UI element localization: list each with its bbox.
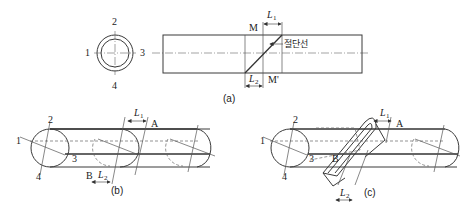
section-label-4: 4 [112,80,117,91]
label-m: M [249,22,258,33]
c-label-3: 3 [309,153,314,164]
caption-b: (b) [111,185,123,196]
c-label-4: 4 [282,171,287,182]
b-label-2: 2 [48,114,53,125]
panel-b-view: L 1 A L 2 B 2 1 3 4 (b) [16,107,215,196]
pipe-cutting-diagram: 2 1 3 4 L 1 L 2 M M' 절단선 (a) [0,0,473,213]
label-m-prime: M' [268,74,279,85]
cut-line-label: 절단선 [284,38,308,49]
b-point-a: A [151,118,159,129]
b-dim-l2-sub: 2 [104,174,108,182]
b-label-3: 3 [72,153,77,164]
caption-c: (c) [364,187,376,198]
c-label-2: 2 [293,114,298,125]
side-view: L 1 L 2 M M' 절단선 (a) [152,9,368,104]
c-dim-l2-sub: 2 [346,192,350,200]
c-dim-l1-sub: 1 [386,112,390,120]
b-dim-l1-sub: 1 [140,112,144,120]
panel-c-view: L 1 A L 2 B 2 1 3 4 (c) [260,107,460,200]
caption-a: (a) [223,93,235,104]
section-label-2: 2 [112,16,117,27]
dim-l2-sub: 2 [255,78,259,86]
section-label-3: 3 [140,47,145,58]
b-point-b: B [86,170,93,181]
c-dim-l2-label: L [339,187,346,198]
b-label-4: 4 [36,171,41,182]
section-label-1: 1 [85,47,90,58]
c-dim-l1-label: L [379,107,386,118]
dim-l1-label: L [266,9,273,20]
cut-line [245,35,282,73]
b-label-1: 1 [16,135,21,146]
c-label-1: 1 [260,135,265,146]
c-point-b: B [332,153,339,164]
dim-l1-sub: 1 [273,14,277,22]
c-point-a: A [396,118,404,129]
dim-l2-label: L [248,73,255,84]
b-dim-l1-label: L [133,107,140,118]
cross-section-view: 2 1 3 4 [85,16,145,91]
b-dim-l2-label: L [97,169,104,180]
